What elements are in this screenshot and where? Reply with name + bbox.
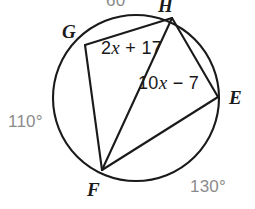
- expr-lead-10: 10: [138, 73, 159, 93]
- arc-measure-GF: 110°: [8, 113, 43, 130]
- vertex-label-G: G: [62, 22, 76, 41]
- angle-expression-GHF: 2x + 17: [101, 38, 162, 57]
- arc-measure-GH: 60: [106, 0, 125, 9]
- vertex-label-F: F: [87, 180, 100, 199]
- vertex-label-E: E: [229, 88, 242, 107]
- angle-expression-HFE: 10x − 7: [138, 73, 199, 92]
- expr-tail-minus7: − 7: [167, 73, 199, 93]
- expr-tail-plus17: + 17: [120, 38, 162, 58]
- expr-variable-x: x: [111, 37, 120, 58]
- geometry-figure-canvas: G H E F 60 110° 130° 2x + 17 10x − 7: [0, 0, 255, 209]
- arc-measure-FE: 130°: [190, 178, 226, 195]
- expr-lead-2: 2: [101, 38, 111, 58]
- vertex-label-H: H: [158, 0, 173, 15]
